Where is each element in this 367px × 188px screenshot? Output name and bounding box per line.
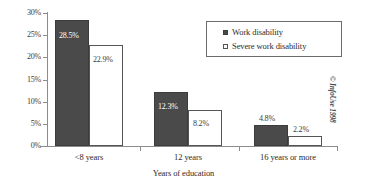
legend-swatch-filled-square-icon [223, 30, 228, 35]
y-tick-label-5-text: 5% [15, 120, 41, 128]
y-tick-5 [43, 124, 47, 125]
y-axis-line [47, 12, 48, 147]
bar-severe-work-disability-16plus [288, 136, 322, 146]
y-tick-20 [43, 57, 47, 58]
x-tick-2 [239, 147, 240, 151]
legend-item-severe-work-disability: Severe work disability [223, 40, 341, 53]
y-tick-25 [43, 35, 47, 36]
y-tick-label-20-text: 20% [15, 53, 41, 61]
x-category-label-12: 12 years [153, 152, 223, 162]
y-tick-label-30-text: 30% [15, 9, 41, 17]
y-tick-label-20: 20% [8, 53, 41, 61]
y-tick-label-0: 0% [8, 142, 41, 150]
y-tick-label-25: 25% [8, 31, 41, 39]
bar-severe-work-disability-12 [188, 110, 222, 146]
bar-value-work-lt8: 28.5% [59, 31, 79, 40]
y-tick-label-15: 15% [8, 76, 41, 84]
y-tick-label-0-text: 0% [15, 142, 41, 150]
y-tick-label-30: 30% [8, 9, 41, 17]
legend-label-severe-work-disability: Severe work disability [232, 42, 306, 51]
bar-work-disability-16plus [254, 125, 288, 146]
bar-work-disability-12 [154, 92, 188, 146]
bar-chart: 30% 25% 20% 15% 10% 5% 0% 28.5% [0, 0, 367, 188]
y-tick-label-10-text: 10% [15, 98, 41, 106]
bar-value-severe-12: 8.2% [193, 119, 209, 128]
bar-value-work-12: 12.3% [158, 102, 178, 111]
legend-item-work-disability: Work disability [223, 26, 341, 39]
bar-value-work-16plus: 4.8% [259, 114, 275, 123]
y-tick-10 [43, 102, 47, 103]
y-tick-label-5: 5% [8, 120, 41, 128]
y-tick-30 [43, 13, 47, 14]
x-tick-3 [337, 147, 338, 151]
y-tick-label-10: 10% [8, 98, 41, 106]
x-axis-line [40, 146, 338, 147]
y-tick-15 [43, 80, 47, 81]
x-category-label-16plus: 16 years or more [243, 152, 333, 162]
bar-value-severe-16plus: 2.2% [293, 125, 309, 134]
legend-swatch-open-square-icon [223, 44, 228, 49]
x-tick-1 [140, 147, 141, 151]
x-axis-title: Years of education [0, 168, 367, 178]
y-tick-label-15-text: 15% [15, 76, 41, 84]
legend: Work disability Severe work disability [206, 21, 342, 57]
x-category-label-lt8: <8 years [54, 152, 124, 162]
legend-label-work-disability: Work disability [232, 28, 283, 37]
copyright-credit: © InfoUse 1998 [327, 76, 337, 146]
bar-value-severe-lt8: 22.9% [93, 55, 113, 64]
y-tick-label-25-text: 25% [15, 31, 41, 39]
